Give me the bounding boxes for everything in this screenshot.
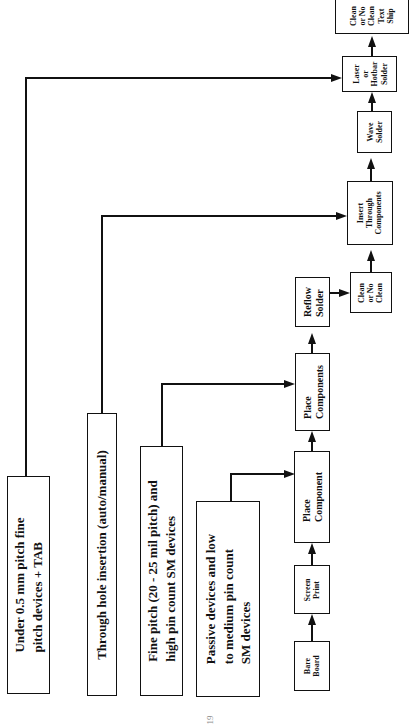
step-label-line: Through [365, 191, 374, 234]
step-clean-test-ship: Clean or No Clean Text Ship [335, 0, 409, 34]
category-through-hole: Through hole insertion (auto/manual) [87, 413, 117, 696]
step-label-line: Hotbar [370, 62, 379, 87]
category-label-line: Passive devices and low [202, 534, 220, 664]
connector-line [161, 383, 286, 385]
step-label-line: or No [366, 283, 375, 303]
step-label-line: Bare [303, 655, 312, 676]
step-insert-through-components: Insert Through Components [347, 181, 393, 245]
arrow-right-icon [284, 380, 295, 388]
step-label-line: Clean [357, 283, 366, 303]
connector-line [311, 343, 313, 353]
step-place-components: Place Components [295, 353, 330, 431]
step-label-line: Clean [376, 283, 385, 303]
step-label-line: Clean [367, 6, 376, 26]
step-label-line: Ship [386, 6, 395, 26]
step-label-line: Clean [349, 6, 358, 26]
step-label-line: Solder [379, 62, 388, 87]
step-label-line: Text [377, 6, 386, 26]
category-label-line: Under 0.5 mm pitch fine [11, 517, 29, 652]
connector-line [230, 473, 286, 475]
category-fine-pitch-sm: Fine pitch (20 - 25 mil pitch) and high … [140, 446, 183, 696]
step-label-line: Laser [351, 62, 360, 87]
category-passive: Passive devices and low to medium pin co… [196, 501, 260, 697]
step-label-line: Place [301, 472, 313, 522]
page-number-text: 19 [205, 716, 215, 725]
step-label-line: Insert [356, 191, 365, 234]
step-label-line: Solder [313, 287, 325, 317]
step-label-line: Screen [303, 578, 312, 601]
category-label-line: Fine pitch (20 - 25 mil pitch) and [144, 480, 162, 662]
step-label-line: Components [313, 365, 325, 419]
category-label-line: high pin count SM devices [162, 480, 180, 662]
connector-line [311, 624, 313, 641]
connector-line [370, 260, 372, 272]
category-fine-pitch-tab: Under 0.5 mm pitch fine pitch devices + … [7, 476, 50, 694]
category-label-line: to medium pin count [219, 534, 237, 664]
arrow-right-icon [339, 289, 350, 297]
step-label-line: Place [301, 365, 313, 419]
arrow-right-icon [336, 212, 347, 220]
step-place-component: Place Component [294, 451, 330, 543]
step-label-line: Print [312, 578, 321, 601]
step-label-line: or [360, 62, 369, 87]
connector-line [101, 215, 339, 217]
step-screen-print: Screen Print [294, 565, 330, 614]
step-laser-hotbar-solder: Laser or Hotbar Solder [342, 56, 397, 92]
page-number: 19 [205, 716, 215, 725]
step-label-line: Wave [365, 121, 374, 143]
category-label-line: pitch devices + TAB [29, 517, 47, 652]
connector-line [371, 46, 373, 56]
category-label-line: Through hole insertion (auto/manual) [93, 450, 111, 660]
step-wave-solder: Wave Solder [357, 111, 392, 153]
connector-line [25, 77, 27, 477]
arrow-right-icon [331, 74, 342, 82]
category-label-line: SM devices [237, 534, 255, 664]
connector-line [311, 553, 313, 565]
connector-line [25, 77, 335, 79]
connector-line [161, 383, 163, 446]
step-clean-or-no-clean: Clean or No Clean [350, 272, 392, 313]
connector-line [371, 102, 373, 111]
step-label-line: Component [312, 472, 324, 522]
step-label-line: Board [312, 655, 321, 676]
connector-line [311, 441, 313, 451]
step-label-line: or No [358, 6, 367, 26]
step-label-line: Components [375, 191, 384, 234]
step-bare-board: Bare Board [294, 641, 330, 691]
step-label-line: Solder [375, 121, 384, 143]
step-label-line: Reflow [301, 287, 313, 317]
connector-line [230, 473, 232, 501]
connector-line [370, 168, 372, 181]
connector-line [101, 215, 103, 413]
step-reflow-solder: Reflow Solder [295, 277, 330, 327]
